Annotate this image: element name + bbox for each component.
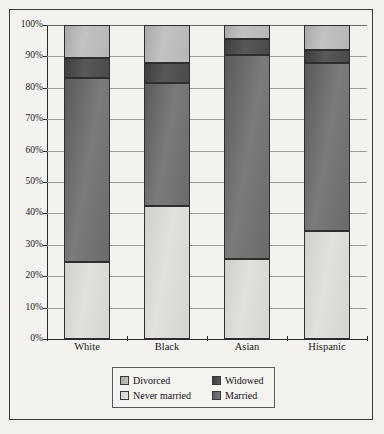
x-tick-mark: [287, 336, 288, 341]
y-tick-label: 10%: [26, 303, 43, 313]
x-axis-label-black: Black: [155, 341, 180, 352]
bar-segment-asian-married[interactable]: [224, 55, 270, 259]
legend-item-married[interactable]: Married: [212, 391, 257, 401]
y-tick-label: 50%: [26, 177, 43, 187]
chart-figure: 100%90%80%70%60%50%40%30%20%10%0% WhiteB…: [0, 0, 384, 434]
legend-row: Never married Married: [120, 388, 267, 403]
x-tick-mark: [367, 336, 368, 341]
legend-label-never-married: Never married: [133, 391, 191, 401]
y-tick-label: 20%: [26, 271, 43, 281]
legend-item-divorced[interactable]: Divorced: [120, 376, 212, 386]
y-tick-label: 90%: [26, 52, 43, 62]
y-axis-labels: 100%90%80%70%60%50%40%30%20%10%0%: [0, 25, 43, 339]
legend-item-widowed[interactable]: Widowed: [212, 376, 263, 386]
bar-group-asian[interactable]: [224, 25, 270, 339]
bar-segment-white-divorced[interactable]: [64, 25, 110, 58]
legend-item-never-married[interactable]: Never married: [120, 391, 212, 401]
legend-swatch-never-married-icon: [120, 391, 129, 400]
bar-segment-black-widowed[interactable]: [144, 63, 190, 83]
y-tick-label: 60%: [26, 146, 43, 156]
y-tick-label: 70%: [26, 114, 43, 124]
y-tick-label: 0%: [30, 334, 43, 344]
x-axis-labels: WhiteBlackAsianHispanic: [47, 341, 367, 359]
legend-label-married: Married: [225, 391, 257, 401]
bar-segment-white-never-married[interactable]: [64, 262, 110, 339]
x-tick-mark: [47, 336, 48, 341]
bar-segment-hispanic-married[interactable]: [304, 63, 350, 231]
legend-row: Divorced Widowed: [120, 373, 267, 388]
bar-segment-white-widowed[interactable]: [64, 58, 110, 78]
legend-label-divorced: Divorced: [133, 376, 170, 386]
x-axis-label-hispanic: Hispanic: [308, 341, 345, 352]
bar-segment-asian-widowed[interactable]: [224, 39, 270, 55]
bar-segment-hispanic-never-married[interactable]: [304, 231, 350, 339]
x-tick-mark: [207, 336, 208, 341]
bar-segment-asian-never-married[interactable]: [224, 259, 270, 339]
legend-swatch-divorced-icon: [120, 376, 129, 385]
chart-legend: Divorced Widowed Never married Married: [112, 367, 275, 408]
legend-label-widowed: Widowed: [225, 376, 263, 386]
legend-swatch-widowed-icon: [212, 376, 221, 385]
bar-segment-black-never-married[interactable]: [144, 206, 190, 339]
plot-area: [47, 25, 367, 339]
bar-group-black[interactable]: [144, 25, 190, 339]
bar-segment-black-married[interactable]: [144, 83, 190, 205]
bar-segment-hispanic-widowed[interactable]: [304, 50, 350, 63]
x-tick-mark: [127, 336, 128, 341]
bar-segment-asian-divorced[interactable]: [224, 25, 270, 39]
x-axis-label-white: White: [74, 341, 100, 352]
bar-segment-white-married[interactable]: [64, 78, 110, 262]
y-tick-label: 100%: [21, 20, 43, 30]
y-tick-label: 30%: [26, 240, 43, 250]
bar-group-hispanic[interactable]: [304, 25, 350, 339]
x-axis-label-asian: Asian: [235, 341, 260, 352]
y-tick-label: 80%: [26, 83, 43, 93]
bar-segment-black-divorced[interactable]: [144, 25, 190, 63]
bar-group-white[interactable]: [64, 25, 110, 339]
y-tick-label: 40%: [26, 209, 43, 219]
bar-segment-hispanic-divorced[interactable]: [304, 25, 350, 50]
legend-swatch-married-icon: [212, 391, 221, 400]
